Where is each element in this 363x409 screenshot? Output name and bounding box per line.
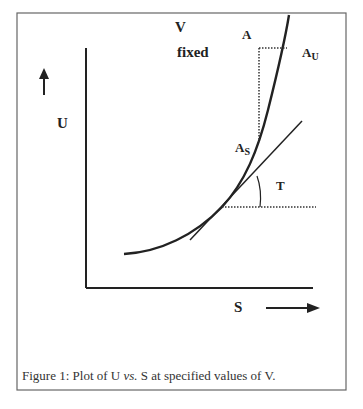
diagram-canvas bbox=[0, 0, 363, 409]
label-as-sub: S bbox=[244, 146, 250, 157]
caption-prefix: Figure 1: Plot of U bbox=[22, 368, 123, 383]
label-v: V bbox=[175, 20, 186, 35]
label-s: S bbox=[234, 300, 242, 315]
label-as-main: A bbox=[235, 140, 244, 155]
figure-caption: Figure 1: Plot of U vs. S at specified v… bbox=[22, 368, 275, 384]
label-au: AU bbox=[302, 46, 319, 59]
right-arrow-icon bbox=[266, 303, 320, 313]
label-au-sub: U bbox=[311, 51, 318, 62]
label-as: AS bbox=[235, 141, 250, 154]
label-au-main: A bbox=[302, 45, 311, 60]
label-t: T bbox=[276, 179, 285, 192]
caption-italic: vs. bbox=[123, 368, 137, 383]
label-fixed: fixed bbox=[177, 45, 209, 60]
angle-arc bbox=[257, 176, 261, 207]
tangent-line bbox=[190, 121, 302, 240]
label-u: U bbox=[57, 116, 68, 131]
up-arrow-icon bbox=[39, 68, 49, 95]
label-a: A bbox=[242, 28, 251, 41]
figure-frame bbox=[17, 13, 346, 390]
caption-suffix: S at specified values of V. bbox=[138, 368, 276, 383]
